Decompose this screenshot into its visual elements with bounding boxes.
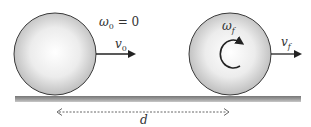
omega-initial-label: ω0 = 0 xyxy=(99,15,139,31)
velocity-final-label: vf xyxy=(281,35,293,51)
velocity-initial-label: v0 xyxy=(115,37,127,53)
distance-label: d xyxy=(140,113,148,127)
ground-surface xyxy=(15,96,301,102)
rolling-ball-diagram: ω0 = 0 v0 ωf vf d xyxy=(0,0,311,127)
ball-initial xyxy=(14,13,96,95)
